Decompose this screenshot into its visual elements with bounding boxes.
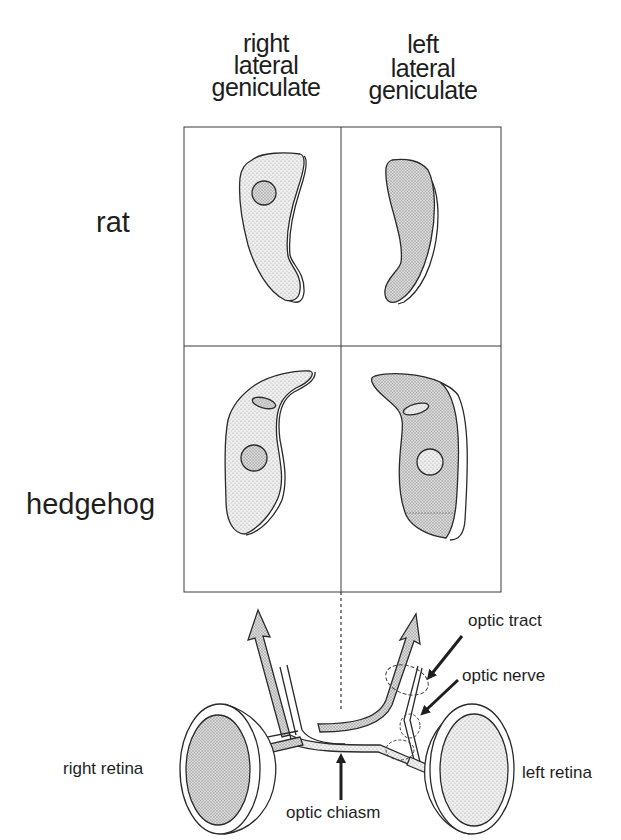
hedgehog-right-lgn [225, 371, 315, 535]
rat-left-lgn [385, 159, 438, 304]
label-left-retina: left retina [522, 764, 592, 781]
rat-right-lgn [239, 153, 306, 302]
optic-tract-pointer [430, 636, 462, 676]
visual-pathway-diagram [0, 0, 621, 840]
left-retina [425, 704, 514, 834]
hedgehog-left-lgn [372, 374, 468, 540]
label-optic-nerve: optic nerve [462, 667, 545, 684]
label-optic-chiasm: optic chiasm [286, 804, 380, 821]
right-retina [180, 704, 276, 834]
optic-nerve-pointer [424, 680, 458, 712]
label-optic-tract: optic tract [468, 612, 542, 629]
label-right-retina: right retina [63, 760, 143, 777]
